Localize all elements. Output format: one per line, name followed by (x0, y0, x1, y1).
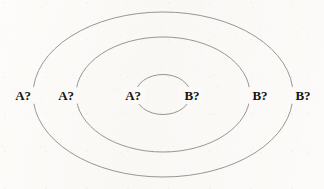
ellipse-middle (76, 37, 250, 152)
concentric-ellipses-group (0, 0, 324, 189)
label-a-middle: A? (58, 89, 74, 102)
label-b-outer: B? (296, 89, 311, 102)
label-b-middle: B? (253, 89, 268, 102)
diagram-canvas: A? A? A? B? B? B? (0, 0, 324, 189)
label-a-inner: A? (125, 89, 141, 102)
label-b-inner: B? (185, 89, 200, 102)
label-a-outer: A? (15, 89, 31, 102)
